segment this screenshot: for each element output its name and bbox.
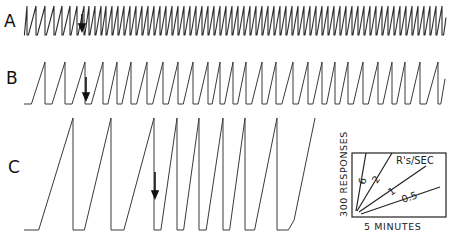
- key-label-2: 2: [370, 174, 383, 186]
- trace-panel-a: [24, 6, 446, 35]
- key-label-6: 6: [356, 177, 368, 186]
- panel-label-a: A: [4, 11, 16, 31]
- key-x-axis-label: 5 MINUTES: [364, 221, 421, 232]
- cumulative-record-figure: A B C 6 2 1 0.5 R's/SEC 300 RESPONSES 5 …: [0, 0, 452, 241]
- key-title: R's/SEC: [396, 155, 434, 166]
- key-line-0-5: [361, 187, 440, 214]
- arrow-head-icon: [83, 93, 89, 100]
- key-y-axis-label: 300 RESPONSES: [338, 131, 349, 217]
- panel-label-c: C: [8, 157, 20, 177]
- panel-label-b: B: [6, 68, 18, 88]
- arrow-head-icon: [152, 191, 158, 198]
- change-point-arrows: [79, 14, 158, 198]
- trace-panel-c: [24, 118, 315, 230]
- key-label-0-5: 0.5: [400, 189, 419, 205]
- rate-key: 6 2 1 0.5 R's/SEC 300 RESPONSES 5 MINUTE…: [338, 131, 446, 232]
